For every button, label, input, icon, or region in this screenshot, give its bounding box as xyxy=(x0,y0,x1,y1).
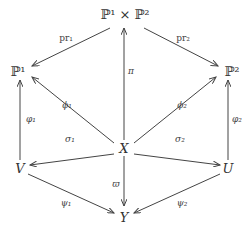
label-phi1: ϕ₁ xyxy=(62,100,72,110)
label-varpi: ϖ xyxy=(112,179,119,189)
node-p1: ℙ¹ xyxy=(11,64,26,79)
label-pr2: pr₂ xyxy=(176,33,190,43)
label-varphi2: φ₂ xyxy=(232,114,242,124)
node-p1xp2: ℙ¹ × ℙ² xyxy=(100,7,149,22)
node-u: U xyxy=(223,161,234,176)
label-pi: π xyxy=(128,66,134,76)
label-sigma2: σ₂ xyxy=(175,134,185,144)
node-y: Y xyxy=(120,210,129,225)
node-v: V xyxy=(15,161,24,176)
node-x: X xyxy=(119,141,128,156)
arrows-layer xyxy=(0,0,251,230)
node-p2: ℙ² xyxy=(225,64,240,79)
label-psi1: ψ₁ xyxy=(61,198,72,208)
label-psi2: ψ₂ xyxy=(177,198,188,208)
label-varphi1: φ₁ xyxy=(26,114,36,124)
arrow-sigma2 xyxy=(134,154,220,165)
label-pr1: pr₁ xyxy=(59,33,73,43)
label-phi2: ϕ₂ xyxy=(177,100,187,110)
arrow-sigma1 xyxy=(30,154,114,165)
label-sigma1: σ₁ xyxy=(65,134,75,144)
